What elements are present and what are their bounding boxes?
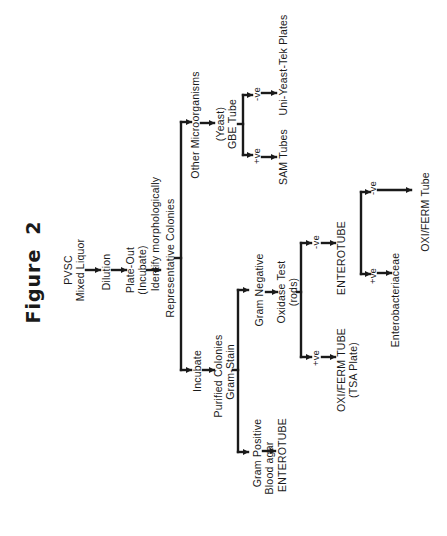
flowchart-figure: Figure2 PVSC Mixed Liquor Dilution Plate… — [0, 0, 447, 536]
label-enterotube-pos: ENTEROTUBE — [276, 418, 288, 492]
label-yeast: (Yeast) — [214, 107, 226, 141]
label-blood-agar: Blood agar — [263, 442, 275, 495]
label-gbe-neg: -ve — [251, 87, 263, 101]
label-rods: (rods) — [287, 278, 299, 307]
label-representative: Representative Colonies — [164, 199, 176, 318]
label-gbe-pos: +ve — [251, 148, 263, 164]
label-oxiferm-tube-final: OXI/FERM Tube — [419, 172, 431, 252]
label-purified-colonies: Purified Colonies — [212, 335, 224, 418]
label-entero-pos: +ve — [367, 268, 379, 284]
label-gbe-tube: GBE Tube — [226, 99, 238, 149]
label-plate-incubate: (Incubate) — [136, 245, 148, 294]
figure-title-word: Figure — [22, 249, 44, 324]
figure-title: Figure2 — [22, 220, 44, 323]
label-gram-negative: Gram Negative — [253, 253, 265, 326]
label-sam-tubes: SAM Tubes — [277, 129, 289, 185]
label-pvsc: PVSC — [62, 255, 74, 284]
label-oxidase-neg: -ve — [310, 235, 322, 249]
label-enterobacteriaceae: Enterobacteriaceae — [389, 253, 401, 348]
label-incubate: Incubate — [191, 350, 203, 392]
label-identify: Identify morphologically — [149, 177, 161, 292]
label-entero-neg: -ve — [367, 181, 379, 195]
label-dilution: Dilution — [100, 254, 112, 291]
label-oxiferm-tube-pos: OXI/FERM TUBE — [335, 328, 347, 412]
label-plate-out: Plate-Out — [124, 247, 136, 293]
label-uni-yeast-tek: Uni-Yeast-Tek Plates — [277, 14, 289, 115]
label-gram-stain: Gram-Stain — [224, 344, 236, 400]
label-gram-positive: Gram Positive — [251, 419, 263, 488]
label-oxidase-pos: +ve — [310, 350, 322, 366]
label-mixed-liquor: Mixed Liquor — [74, 239, 86, 302]
label-enterotube-neg: ENTEROTUBE — [335, 221, 347, 295]
label-tsa-plate: (TSA Plate) — [347, 342, 359, 398]
figure-number: 2 — [22, 220, 44, 234]
label-oxidase-test: Oxidase Test — [275, 261, 287, 324]
label-other-microorganisms: Other Microorganisms — [189, 71, 201, 178]
